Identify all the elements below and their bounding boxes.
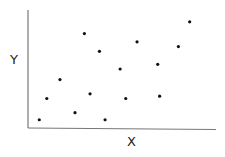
data-point: [58, 78, 61, 81]
data-point: [83, 32, 86, 35]
data-point: [88, 92, 91, 95]
y-axis-label: Y: [10, 52, 18, 67]
data-point: [188, 20, 191, 23]
scatter-plot: [0, 0, 225, 157]
data-point: [156, 63, 159, 66]
data-point: [98, 50, 101, 53]
data-point: [38, 118, 41, 121]
x-axis: [28, 128, 216, 130]
data-point: [124, 97, 127, 100]
data-points: [38, 20, 192, 121]
data-point: [135, 40, 138, 43]
data-point: [103, 118, 106, 121]
x-axis-label: X: [127, 134, 136, 149]
data-point: [158, 95, 161, 98]
data-point: [177, 45, 180, 48]
data-point: [73, 111, 76, 114]
data-point: [45, 97, 48, 100]
data-point: [119, 67, 122, 70]
